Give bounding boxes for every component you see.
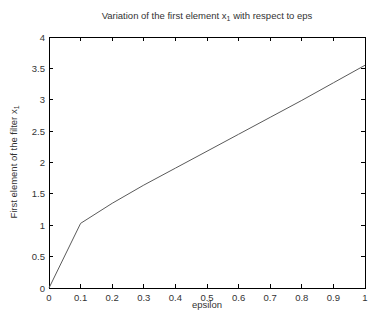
axes-box [49, 37, 365, 288]
y-tick-label: 3 [40, 94, 45, 105]
y-tick-label: 0.5 [32, 251, 45, 262]
y-tick-label: 1.5 [32, 188, 45, 199]
y-tick-label: 2 [40, 157, 45, 168]
y-tick-label: 2.5 [32, 126, 45, 137]
data-line [49, 65, 365, 288]
plot-area: 00.10.20.30.40.50.60.70.80.9100.511.522.… [0, 0, 382, 335]
x-axis-label: epsilon [49, 299, 365, 310]
figure: Variation of the first element x1 with r… [0, 0, 382, 335]
y-tick-label: 4 [40, 32, 45, 43]
y-tick-label: 1 [40, 220, 45, 231]
y-tick-label: 0 [40, 283, 45, 294]
y-tick-label: 3.5 [32, 63, 45, 74]
